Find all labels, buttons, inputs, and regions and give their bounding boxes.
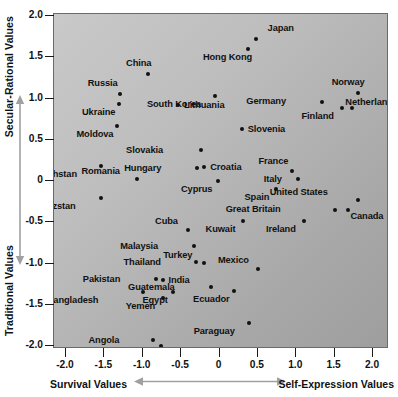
y-axis-tick-label: -1.5 [25,299,43,309]
plot-area: JapanHong KongChinaNorwayRussiaSouth Kor… [53,13,388,348]
point-label: Hungary [124,164,161,173]
y-axis-tick [45,345,54,346]
data-point [192,244,196,248]
x-axis-tick [219,348,220,357]
point-label: Norway [332,78,365,87]
x-axis-tick [142,348,143,357]
point-label: Ecuador [193,295,230,304]
data-point [151,338,155,342]
point-label: Germany [246,97,286,106]
x-axis-tick [295,348,296,357]
x-axis-tick-label: 0.5 [250,360,264,370]
data-point [194,260,198,264]
data-point [241,219,245,223]
data-point [202,261,206,265]
horizontal-axis-arrow [134,376,286,387]
data-point [202,165,206,169]
x-axis-title-right: Self-Expression Values [278,378,394,390]
data-point [195,166,199,170]
y-axis-tick [45,263,54,264]
x-axis-tick-label: -1.5 [95,360,113,370]
data-point [350,106,354,110]
x-axis-title-left: Survival Values [50,378,127,390]
x-axis-tick-label: -2.0 [56,360,74,370]
point-label: Kyrgyzstan [53,202,76,211]
point-label: Russia [88,79,118,88]
y-axis-tick-label: 1.0 [29,93,43,103]
data-point [356,198,360,202]
x-axis-tick-label: -0.5 [171,360,189,370]
data-point [176,103,180,107]
point-label: Pakistan [83,275,120,284]
point-label: Turkey [163,251,192,260]
point-label: Japan [268,24,294,33]
data-point [135,177,139,181]
point-label: Finland [302,112,334,121]
point-label: Kazakhstan [53,170,77,179]
x-axis-tick-label: -1.0 [133,360,151,370]
data-point [186,228,190,232]
y-axis-tick-label: 1.5 [29,51,43,61]
data-point [356,91,360,95]
data-point [340,106,344,110]
x-axis-tick [372,348,373,357]
x-axis-tick [65,348,66,357]
x-axis-tick-label: 0 [216,360,222,370]
x-axis-tick-label: 1.0 [288,360,302,370]
data-point [117,102,121,106]
y-axis-tick [45,304,54,305]
y-axis-tick [45,139,54,140]
point-label: Cyprus [181,185,212,194]
data-point [246,47,250,51]
data-point [216,179,220,183]
point-label: Croatia [210,163,241,172]
data-point [247,321,251,325]
point-label: Lithuania [184,101,224,110]
y-axis-tick-label: -0.5 [25,216,43,226]
y-axis-title-top: Secular-Rational Values [3,16,15,137]
point-label: Guatemala [128,283,175,292]
data-point [333,208,337,212]
point-label: France [258,157,288,166]
data-point [159,344,163,348]
y-axis-tick-label: 0 [37,175,43,185]
vertical-axis-arrow [19,95,21,265]
point-label: Italy [264,175,282,184]
data-point [290,169,294,173]
x-axis-tick [180,348,181,357]
data-point [254,37,258,41]
scatter-chart: JapanHong KongChinaNorwayRussiaSouth Kor… [0,0,398,397]
point-label: Angola [88,336,119,345]
x-axis-tick-label: 1.5 [327,360,341,370]
data-point [320,100,324,104]
point-label: Bangladesh [53,296,98,305]
data-point [141,290,145,294]
point-label: China [126,59,151,68]
data-point [209,285,213,289]
data-point [115,124,119,128]
data-point [99,164,103,168]
data-point [161,296,165,300]
point-label: Ukraine [82,108,115,117]
data-point [256,267,260,271]
x-axis-tick [257,348,258,357]
data-point [154,277,158,281]
data-point [199,148,203,152]
point-label: Moldova [76,130,113,139]
y-axis-tick [45,98,54,99]
y-axis-tick [45,56,54,57]
data-point [99,196,103,200]
data-point [240,127,244,131]
point-label: Canada [350,212,383,221]
point-label: Spain [245,193,270,202]
y-axis-tick [45,221,54,222]
point-label: Kuwait [206,225,236,234]
data-point [146,72,150,76]
data-point [232,289,236,293]
data-point [161,278,165,282]
point-label: Malaysia [120,242,158,251]
point-label: Great Britain [226,205,281,214]
point-label: Hong Kong [203,53,252,62]
y-axis-title-bottom: Traditional Values [3,245,15,336]
y-axis-tick-label: 0.5 [29,134,43,144]
